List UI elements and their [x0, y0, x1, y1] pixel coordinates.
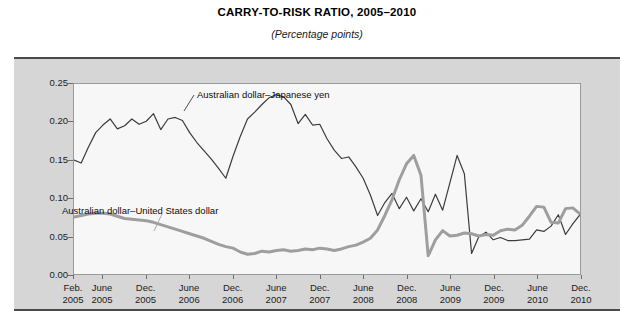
x-axis-ticks: [73, 275, 581, 280]
series-lines: [74, 84, 580, 274]
x-axis-tick-label: Dec.2005: [124, 282, 168, 305]
x-axis-tick-mark: [407, 275, 408, 279]
y-axis-tick-label: 0.25: [34, 78, 68, 88]
x-axis-tick-month: June: [515, 282, 559, 294]
x-axis-tick-month: Dec.: [124, 282, 168, 294]
x-axis-tick-mark: [494, 275, 495, 279]
y-axis-labels: 0.250.200.150.100.050.00: [30, 83, 68, 275]
series-label-aud-jpy: Australian dollar–Japanese yen: [197, 89, 330, 100]
x-axis-tick-month: Dec.: [211, 282, 255, 294]
x-axis-labels: Feb.2005June2005Dec.2005June2006Dec.2006…: [14, 282, 620, 310]
x-axis-tick-year: 2007: [298, 294, 342, 306]
x-axis-tick-mark: [233, 275, 234, 279]
x-axis-tick-mark: [276, 275, 277, 279]
x-axis-tick-label: June2005: [80, 282, 124, 305]
x-axis-tick-label: Dec.2009: [472, 282, 516, 305]
chart-figure: CARRY-TO-RISK RATIO, 2005–2010 (Percenta…: [0, 0, 634, 335]
x-axis-tick-label: June2009: [428, 282, 472, 305]
x-axis-tick-year: 2006: [167, 294, 211, 306]
x-axis-tick-year: 2009: [472, 294, 516, 306]
x-axis-tick-month: Dec.: [385, 282, 429, 294]
x-axis-tick-month: June: [341, 282, 385, 294]
x-axis-tick-label: Dec.2010: [559, 282, 603, 305]
x-axis-tick-mark: [73, 275, 74, 279]
x-axis-tick-mark: [189, 275, 190, 279]
x-axis-tick-month: June: [167, 282, 211, 294]
y-axis-tick-label: 0.10: [34, 193, 68, 203]
y-axis-tick-label: 0.05: [34, 232, 68, 242]
x-axis-tick-month: June: [428, 282, 472, 294]
x-axis-tick-mark: [363, 275, 364, 279]
x-axis-tick-year: 2008: [385, 294, 429, 306]
y-axis-tick-label: 0.20: [34, 116, 68, 126]
x-axis-tick-year: 2010: [559, 294, 603, 306]
x-axis-tick-year: 2010: [515, 294, 559, 306]
x-axis-tick-label: June2006: [167, 282, 211, 305]
x-axis-tick-label: June2010: [515, 282, 559, 305]
chart-panel: 0.250.200.150.100.050.00 Feb.2005June200…: [14, 57, 620, 311]
x-axis-tick-month: Dec.: [298, 282, 342, 294]
x-axis-tick-year: 2008: [341, 294, 385, 306]
series-label-aud-usd: Australian dollar–United States dollar: [62, 205, 218, 216]
x-axis-tick-year: 2006: [211, 294, 255, 306]
x-axis-tick-year: 2005: [80, 294, 124, 306]
x-axis-tick-mark: [537, 275, 538, 279]
x-axis-tick-label: Dec.2008: [385, 282, 429, 305]
x-axis-tick-mark: [146, 275, 147, 279]
chart-title: CARRY-TO-RISK RATIO, 2005–2010: [0, 6, 634, 18]
x-axis-tick-label: Dec.2007: [298, 282, 342, 305]
x-axis-tick-mark: [102, 275, 103, 279]
x-axis-tick-mark: [320, 275, 321, 279]
plot-area: [73, 83, 581, 275]
y-axis-tick-label: 0.00: [34, 270, 68, 280]
x-axis-tick-label: June2008: [341, 282, 385, 305]
x-axis-tick-month: June: [254, 282, 298, 294]
x-axis-tick-year: 2007: [254, 294, 298, 306]
x-axis-tick-mark: [450, 275, 451, 279]
chart-subtitle: (Percentage points): [0, 28, 634, 40]
x-axis-tick-label: June2007: [254, 282, 298, 305]
x-axis-tick-label: Dec.2006: [211, 282, 255, 305]
x-axis-tick-month: Dec.: [559, 282, 603, 294]
x-axis-tick-year: 2009: [428, 294, 472, 306]
x-axis-tick-mark: [581, 275, 582, 279]
x-axis-tick-month: June: [80, 282, 124, 294]
x-axis-tick-month: Dec.: [472, 282, 516, 294]
y-axis-tick-label: 0.15: [34, 155, 68, 165]
x-axis-tick-year: 2005: [124, 294, 168, 306]
